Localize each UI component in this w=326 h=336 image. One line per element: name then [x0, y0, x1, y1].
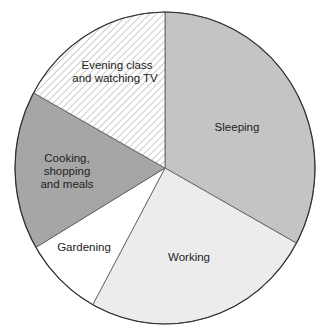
slice-label-gardening: Gardening: [57, 241, 111, 253]
slice-label-cooking-line3: and meals: [40, 178, 93, 190]
pie-chart: Sleeping Working Gardening Cooking, shop…: [0, 0, 326, 336]
slice-label-cooking-line2: shopping: [44, 165, 91, 177]
slice-label-working: Working: [168, 251, 210, 263]
slice-label-cooking-line1: Cooking,: [44, 152, 89, 164]
slice-label-evening-line2: and watching TV: [72, 72, 158, 84]
slice-label-sleeping: Sleeping: [215, 121, 260, 133]
slice-label-evening-line1: Evening class: [82, 59, 153, 71]
